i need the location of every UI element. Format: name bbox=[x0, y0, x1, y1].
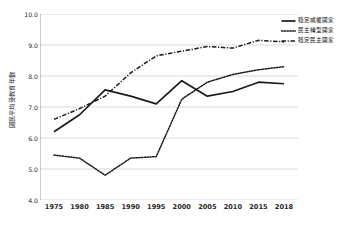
legend-line-swatch-icon bbox=[281, 37, 296, 45]
y-axis-tick-label: 5.0 bbox=[28, 166, 38, 173]
x-axis-tick-labels: 1975198019851990199520002005201020152018 bbox=[40, 203, 298, 219]
y-axis-title-text: 國民平均受教育年數 bbox=[9, 72, 15, 129]
x-axis-tick-label: 2015 bbox=[249, 203, 267, 211]
legend-item-label: 穩定民主國家 bbox=[298, 38, 335, 44]
y-axis-tick-label: 8.0 bbox=[28, 73, 38, 80]
x-axis-tick-label: 1980 bbox=[70, 203, 88, 211]
legend-item-label: 穩定威權國家 bbox=[298, 18, 335, 24]
x-axis-tick-label: 2018 bbox=[275, 203, 293, 211]
x-axis-tick-label: 1975 bbox=[45, 203, 63, 211]
chart-legend: 穩定威權國家民主轉型國家穩定民主國家 bbox=[281, 16, 343, 46]
legend-item[interactable]: 民主轉型國家 bbox=[281, 26, 343, 35]
x-axis-tick-label: 1985 bbox=[96, 203, 114, 211]
x-axis-tick-label: 2005 bbox=[198, 203, 216, 211]
legend-line-swatch-icon bbox=[281, 17, 296, 25]
x-axis-tick-label: 1995 bbox=[147, 203, 165, 211]
legend-item[interactable]: 穩定威權國家 bbox=[281, 16, 343, 25]
y-axis-tick-label: 4.0 bbox=[28, 197, 38, 204]
x-axis-tick-label: 2000 bbox=[173, 203, 191, 211]
series-line-1 bbox=[54, 81, 284, 132]
line-chart: 國民平均受教育年數 4.05.06.07.08.09.010.0 1975198… bbox=[0, 0, 344, 233]
x-axis-tick-label: 2010 bbox=[224, 203, 242, 211]
plot-svg bbox=[40, 14, 298, 200]
y-axis-tick-label: 10.0 bbox=[24, 11, 38, 18]
series-line-3 bbox=[54, 40, 284, 119]
y-axis-tick-label: 9.0 bbox=[28, 42, 38, 49]
plot-area bbox=[40, 14, 298, 200]
x-axis-tick-label: 1990 bbox=[121, 203, 139, 211]
y-axis-tick-label: 7.0 bbox=[28, 104, 38, 111]
y-axis-tick-label: 6.0 bbox=[28, 135, 38, 142]
legend-item-label: 民主轉型國家 bbox=[298, 28, 335, 34]
legend-line-swatch-icon bbox=[281, 27, 296, 35]
series-line-2 bbox=[54, 67, 284, 176]
y-axis-tick-labels: 4.05.06.07.08.09.010.0 bbox=[18, 14, 38, 200]
legend-item[interactable]: 穩定民主國家 bbox=[281, 36, 343, 45]
